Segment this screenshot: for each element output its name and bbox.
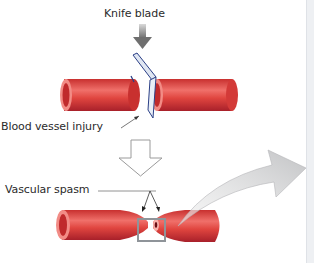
vessel-left-segment <box>60 79 140 111</box>
spasm-pointer-right <box>150 191 158 208</box>
knife-arrow-icon <box>133 24 152 49</box>
spasm-arrowhead-right <box>156 207 160 212</box>
injury-pointer-arrowhead <box>134 116 139 120</box>
side-panel-edge <box>306 0 314 263</box>
vessel-right-segment <box>151 79 238 111</box>
blood-vessel-injury-label: Blood vessel injury <box>1 120 103 133</box>
knife-blade-label: Knife blade <box>104 7 165 20</box>
process-arrow-icon <box>119 140 162 176</box>
spasm-pointer-left <box>144 191 150 208</box>
vascular-spasm-label: Vascular spasm <box>5 183 89 196</box>
